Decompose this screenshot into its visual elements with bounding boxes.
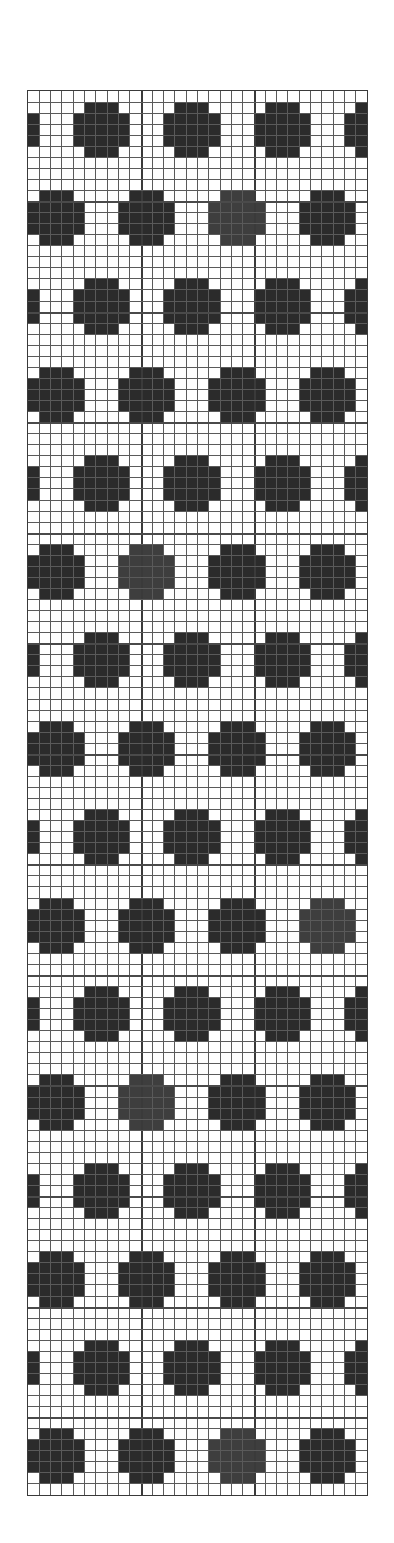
chart-cell-filled (186, 1009, 198, 1021)
chart-cell-filled (311, 202, 323, 214)
chart-cell-filled (51, 743, 63, 755)
chart-cell-filled (130, 909, 142, 921)
chart-cell-filled (107, 1208, 119, 1220)
chart-cell-filled (356, 1340, 368, 1352)
chart-cell-filled (299, 577, 311, 589)
chart-cell-filled (277, 478, 289, 490)
chart-cell-filled (39, 898, 51, 910)
chart-cell-filled (344, 1009, 356, 1021)
chart-cell-filled (186, 301, 198, 313)
chart-cell-filled (62, 401, 74, 413)
chart-cell-filled (175, 135, 187, 147)
chart-cell-filled (118, 732, 130, 744)
chart-cell-filled (39, 555, 51, 567)
chart-cell-filled (107, 843, 119, 855)
chart-cell-filled (209, 478, 221, 490)
chart-cell-filled (164, 566, 176, 578)
chart-cell-filled (277, 655, 289, 667)
chart-cell-filled (344, 489, 356, 501)
chart-cell-filled (344, 113, 356, 125)
chart-cell-filled (130, 1086, 142, 1098)
chart-cell-filled (344, 566, 356, 578)
chart-cell-filled (51, 1097, 63, 1109)
chart-cell-filled (164, 478, 176, 490)
chart-cell-filled (73, 1274, 85, 1286)
chart-cell-filled (356, 655, 368, 667)
chart-cell-filled (96, 467, 108, 479)
chart-cell-filled (118, 555, 130, 567)
chart-cell-filled (231, 190, 243, 202)
chart-cell-filled (209, 743, 221, 755)
chart-cell-filled (209, 467, 221, 479)
chart-cell-filled (243, 367, 255, 379)
chart-cell-filled (333, 942, 345, 954)
chart-cell-filled (322, 1451, 334, 1463)
chart-cell-filled (96, 1020, 108, 1032)
chart-cell-filled (152, 1097, 164, 1109)
chart-cell-filled (186, 1174, 198, 1186)
chart-cell-filled (277, 489, 289, 501)
chart-cell-filled (175, 1340, 187, 1352)
chart-cell-filled (164, 666, 176, 678)
chart-cell-filled (344, 1020, 356, 1032)
chart-cell-filled (130, 588, 142, 600)
chart-cell-filled (220, 367, 232, 379)
chart-cell-filled (118, 1108, 130, 1120)
chart-cell-filled (243, 1263, 255, 1275)
chart-cell-filled (96, 124, 108, 136)
chart-cell-filled (152, 1429, 164, 1441)
chart-cell-filled (96, 843, 108, 855)
chart-cell-filled (164, 1174, 176, 1186)
chart-cell-filled (209, 1462, 221, 1474)
chart-cell-filled (265, 1384, 277, 1396)
chart-cell-filled (85, 1185, 97, 1197)
chart-cell-filled (299, 666, 311, 678)
chart-cell-filled (209, 124, 221, 136)
chart-cell-filled (96, 854, 108, 866)
chart-cell-filled (322, 1462, 334, 1474)
chart-cell-filled (118, 1174, 130, 1186)
chart-cell-filled (118, 1086, 130, 1098)
chart-cell-filled (186, 312, 198, 324)
chart-cell-filled (333, 1263, 345, 1275)
chart-cell-filled (322, 588, 334, 600)
chart-cell-filled (118, 743, 130, 755)
chart-cell-filled (299, 566, 311, 578)
chart-cell-filled (356, 986, 368, 998)
chart-cell-filled (299, 290, 311, 302)
chart-cell-filled (344, 832, 356, 844)
chart-cell-filled (85, 301, 97, 313)
chart-cell-filled (51, 235, 63, 247)
chart-cell-filled (39, 1263, 51, 1275)
chart-cell-filled (322, 1086, 334, 1098)
chart-cell-filled (51, 931, 63, 943)
chart-cell-filled (356, 633, 368, 645)
chart-cell-filled (152, 544, 164, 556)
chart-cell-filled (73, 1185, 85, 1197)
chart-cell-filled (254, 655, 266, 667)
chart-cell-filled (186, 821, 198, 833)
chart-cell-filled (288, 854, 300, 866)
chart-cell-filled (311, 732, 323, 744)
chart-cell-filled (175, 821, 187, 833)
chart-cell-filled (333, 898, 345, 910)
chart-cell-filled (220, 721, 232, 733)
chart-cell-filled (152, 931, 164, 943)
chart-cell-filled (107, 1009, 119, 1021)
chart-cell-filled (175, 1174, 187, 1186)
chart-cell-filled (175, 1009, 187, 1021)
chart-cell-filled (141, 588, 153, 600)
chart-cell-filled (198, 677, 210, 689)
chart-cell-filled (209, 832, 221, 844)
chart-cell-filled (344, 1185, 356, 1197)
chart-cell-filled (28, 135, 40, 147)
chart-cell-filled (141, 202, 153, 214)
chart-cell-filled (333, 1274, 345, 1286)
chart-cell-filled (220, 1252, 232, 1264)
chart-cell-filled (311, 920, 323, 932)
chart-cell-filled (231, 544, 243, 556)
chart-cell-filled (231, 909, 243, 921)
chart-cell-filled (118, 931, 130, 943)
chart-cell-filled (299, 909, 311, 921)
chart-cell-filled (209, 843, 221, 855)
